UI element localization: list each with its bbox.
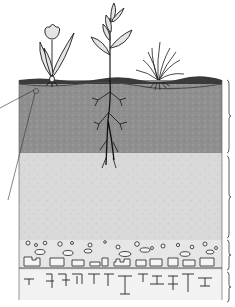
brace-weathered-rock bbox=[227, 240, 231, 270]
layer-braces bbox=[227, 80, 231, 302]
brace-subsoil bbox=[227, 156, 231, 238]
sapling-plant bbox=[91, 3, 132, 80]
brace-topsoil bbox=[227, 80, 231, 153]
brace-bedrock bbox=[227, 272, 231, 302]
bedrock-layer bbox=[19, 270, 222, 300]
soil-profile-diagram bbox=[0, 0, 235, 307]
tulip-plant bbox=[40, 25, 74, 88]
subsoil-layer bbox=[19, 153, 222, 240]
topsoil-layer bbox=[19, 76, 222, 153]
weathered-rock-layer bbox=[19, 240, 222, 270]
